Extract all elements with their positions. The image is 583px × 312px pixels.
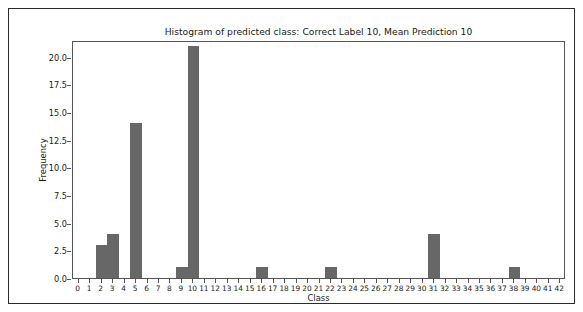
y-axis-tick-label: 2.5 <box>54 246 67 256</box>
x-axis-tick-label: 40 <box>532 284 541 293</box>
histogram-bar <box>325 267 336 278</box>
x-axis-tick-label: 8 <box>167 284 172 293</box>
histogram-bar <box>509 267 520 278</box>
x-axis-tick-mark <box>250 279 251 283</box>
x-axis-tick-mark <box>135 279 136 283</box>
figure-frame: Histogram of predicted class: Correct La… <box>8 8 575 304</box>
x-axis-tick-label: 13 <box>222 284 231 293</box>
x-axis-tick-label: 24 <box>348 284 357 293</box>
y-axis-tick-label: 0.0 <box>54 274 67 284</box>
y-axis-tick-label: 15.0 <box>49 108 67 118</box>
x-axis-tick-label: 30 <box>417 284 426 293</box>
x-axis-tick-label: 32 <box>440 284 449 293</box>
x-axis-tick-mark <box>238 279 239 283</box>
x-axis-tick-mark <box>273 279 274 283</box>
x-axis-tick-mark <box>330 279 331 283</box>
x-axis-tick-mark <box>399 279 400 283</box>
x-axis-tick-mark <box>181 279 182 283</box>
x-axis-tick-mark <box>559 279 560 283</box>
x-axis-tick-label: 3 <box>110 284 115 293</box>
histogram-bar <box>176 267 187 278</box>
x-axis-tick-mark <box>490 279 491 283</box>
x-axis-tick-mark <box>387 279 388 283</box>
x-axis-tick-label: 31 <box>428 284 437 293</box>
x-axis-tick-label: 27 <box>383 284 392 293</box>
y-axis-tick-mark <box>67 85 71 86</box>
x-axis-tick-label: 33 <box>451 284 460 293</box>
x-axis-tick-mark <box>422 279 423 283</box>
x-axis-tick-label: 37 <box>497 284 506 293</box>
histogram-bar <box>107 234 118 278</box>
y-axis-tick-mark <box>67 224 71 225</box>
x-axis-tick-label: 41 <box>543 284 552 293</box>
y-axis-tick-mark <box>67 196 71 197</box>
y-axis-label: Frequency <box>38 110 48 210</box>
x-axis-tick-mark <box>536 279 537 283</box>
x-axis-tick-mark <box>410 279 411 283</box>
x-axis-tick-label: 28 <box>394 284 403 293</box>
x-axis-tick-mark <box>433 279 434 283</box>
x-axis-tick-label: 21 <box>314 284 323 293</box>
x-axis-tick-label: 6 <box>144 284 149 293</box>
x-axis-tick-mark <box>158 279 159 283</box>
x-axis-tick-mark <box>169 279 170 283</box>
x-axis-tick-mark <box>147 279 148 283</box>
x-axis-tick-mark <box>78 279 79 283</box>
x-axis-tick-mark <box>513 279 514 283</box>
x-axis-tick-label: 26 <box>371 284 380 293</box>
y-axis-tick-label: 10.0 <box>49 163 67 173</box>
histogram-bar <box>428 234 439 278</box>
x-axis-tick-label: 16 <box>256 284 265 293</box>
x-axis-tick-label: 34 <box>463 284 472 293</box>
x-axis: Class 0123456789101112131415161718192021… <box>72 279 565 301</box>
y-axis-tick-mark <box>67 113 71 114</box>
x-axis-tick-mark <box>376 279 377 283</box>
x-axis-tick-mark <box>353 279 354 283</box>
x-axis-tick-mark <box>261 279 262 283</box>
plot-area: Frequency <box>72 41 565 279</box>
histogram-bar <box>130 123 141 278</box>
y-axis-tick-mark <box>67 168 71 169</box>
x-axis-label: Class <box>72 293 565 303</box>
x-axis-tick-label: 2 <box>98 284 103 293</box>
histogram-bar <box>188 46 199 278</box>
x-axis-tick-label: 42 <box>555 284 564 293</box>
x-axis-tick-mark <box>112 279 113 283</box>
x-axis-tick-label: 5 <box>133 284 138 293</box>
x-axis-tick-label: 1 <box>87 284 92 293</box>
x-axis-tick-mark <box>502 279 503 283</box>
x-axis-tick-label: 22 <box>325 284 334 293</box>
bars-container <box>73 42 564 278</box>
histogram-bar <box>256 267 267 278</box>
x-axis-tick-label: 25 <box>360 284 369 293</box>
chart-title: Histogram of predicted class: Correct La… <box>72 26 565 37</box>
x-axis-tick-label: 35 <box>474 284 483 293</box>
x-axis-tick-mark <box>192 279 193 283</box>
x-axis-tick-label: 14 <box>234 284 243 293</box>
x-axis-tick-mark <box>124 279 125 283</box>
x-axis-tick-mark <box>296 279 297 283</box>
x-axis-tick-mark <box>101 279 102 283</box>
y-axis-tick-mark <box>67 58 71 59</box>
x-axis-tick-label: 39 <box>520 284 529 293</box>
figure-canvas: Histogram of predicted class: Correct La… <box>0 0 583 312</box>
x-axis-tick-label: 18 <box>279 284 288 293</box>
x-axis-tick-label: 11 <box>199 284 208 293</box>
x-axis-tick-mark <box>215 279 216 283</box>
x-axis-tick-mark <box>445 279 446 283</box>
x-axis-tick-mark <box>341 279 342 283</box>
x-axis-tick-label: 17 <box>268 284 277 293</box>
x-axis-tick-mark <box>479 279 480 283</box>
x-axis-tick-mark <box>307 279 308 283</box>
x-axis-tick-label: 29 <box>406 284 415 293</box>
y-axis-tick-mark <box>67 251 71 252</box>
x-axis-tick-label: 36 <box>486 284 495 293</box>
y-axis-tick-mark <box>67 141 71 142</box>
x-axis-tick-mark <box>525 279 526 283</box>
x-axis-tick-mark <box>89 279 90 283</box>
x-axis-tick-label: 10 <box>188 284 197 293</box>
y-axis-tick-label: 17.5 <box>49 80 67 90</box>
x-axis-tick-label: 15 <box>245 284 254 293</box>
y-axis-tick-label: 12.5 <box>49 136 67 146</box>
y-axis-tick-label: 7.5 <box>54 191 67 201</box>
